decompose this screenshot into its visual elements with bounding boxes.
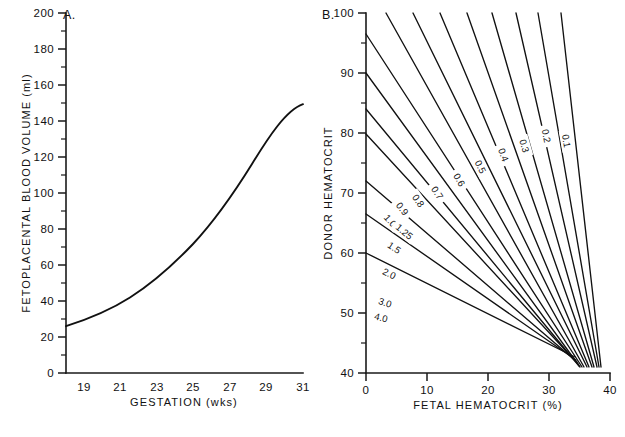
panel-a-xtick-25: 25 [186,381,200,393]
panel-b-ytick-70: 70 [340,187,354,199]
contour-line-4-0 [366,253,575,357]
panel-a-ytick-160: 160 [34,79,54,91]
panel-a: A. [20,7,310,408]
panel-a-ytick-180: 180 [34,43,54,55]
contour-line-0-3 [516,13,597,367]
panel-a-ytick-20: 20 [40,331,54,343]
panel-a-ytick-120: 120 [34,151,54,163]
panel-b-xtick-40: 40 [603,384,617,396]
panel-a-x-axis-title: GESTATION (wks) [130,396,238,408]
panel-a-ytick-140: 140 [34,115,54,127]
panel-b-xtick-0: 0 [363,384,370,396]
contour-line-0-4 [492,13,594,367]
panel-a-xtick-29: 29 [259,381,273,393]
panel-a-ytick-40: 40 [40,295,54,307]
panel-a-ytick-0: 0 [47,367,54,379]
panel-b-ytick-60: 60 [340,247,354,259]
panel-a-ytick-100: 100 [34,187,54,199]
panel-b-ytick-80: 80 [340,127,354,139]
panel-b-x-ticks [366,373,610,381]
panel-b-ytick-90: 90 [340,67,354,79]
panel-b-y-ticks [358,13,366,373]
panel-b-xtick-30: 30 [542,384,556,396]
panel-a-ytick-80: 80 [40,223,54,235]
panel-b-x-axis-title: FETAL HEMATOCRIT (%) [413,399,563,411]
panel-a-xtick-27: 27 [223,381,237,393]
panel-b-contour-lines [366,13,601,367]
panel-b-xtick-20: 20 [481,384,495,396]
panel-a-ytick-200: 200 [34,7,54,19]
panel-a-label: A. [63,8,76,22]
panel-a-data-curve [66,104,303,326]
panel-b-ytick-50: 50 [340,307,354,319]
panel-a-xtick-23: 23 [150,381,164,393]
panel-a-ytick-60: 60 [40,259,54,271]
contour-label-0-1: 0.1 [560,133,573,148]
figure-svg: A. [0,0,625,437]
panel-b-xtick-10: 10 [420,384,434,396]
panel-b-ytick-100: 100 [334,7,354,19]
panel-a-xtick-19: 19 [77,381,91,393]
panel-a-xtick-21: 21 [113,381,127,393]
panel-a-xtick-31: 31 [296,381,310,393]
figure-container: A. [0,0,625,437]
panel-b-y-axis-title: DONOR HEMATOCRIT [322,126,334,259]
panel-a-y-axis-title: FETOPLACENTAL BLOOD VOLUME (ml) [20,73,32,312]
contour-label-4-0: 4.0 [373,311,389,325]
panel-b: B. 100 90 [322,7,617,411]
panel-b-ytick-40: 40 [340,367,354,379]
